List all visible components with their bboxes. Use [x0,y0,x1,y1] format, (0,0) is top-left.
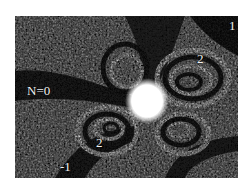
fringe-label-2-upper: 2 [197,52,204,65]
fringe-pattern-image: N=0 1 2 2 -1 [15,16,238,178]
fringe-label-2-lower: 2 [96,136,103,149]
fringe-label-neg1: -1 [60,160,71,173]
central-bright-spot [125,78,169,124]
fringe-label-1: 1 [229,19,236,32]
fringe-label-n0: N=0 [27,84,50,97]
